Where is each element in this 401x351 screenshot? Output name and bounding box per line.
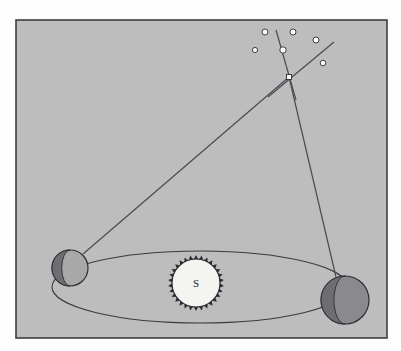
background-star-on-line <box>280 47 286 53</box>
background-star-4 <box>313 37 319 43</box>
earth-position-left <box>52 250 88 286</box>
background-star-1 <box>262 29 268 35</box>
stellar-parallax-diagram: S <box>0 0 401 351</box>
background-star-3 <box>252 47 257 52</box>
background-star-2 <box>290 29 296 35</box>
target-star <box>287 75 292 80</box>
diagram-canvas: S <box>0 0 401 351</box>
sun-label: S <box>193 277 199 289</box>
earth-position-right <box>321 276 369 324</box>
background-star-5 <box>320 60 326 66</box>
